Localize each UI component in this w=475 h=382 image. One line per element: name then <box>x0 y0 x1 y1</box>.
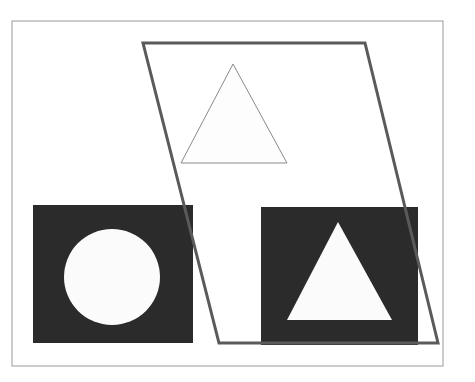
diagram-canvas <box>0 0 475 382</box>
outline-triangle <box>181 64 287 163</box>
white-circle <box>64 229 160 325</box>
